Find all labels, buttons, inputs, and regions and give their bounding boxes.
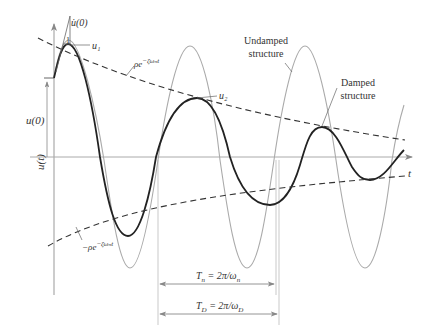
undamped-leader [285, 63, 292, 72]
undamped-label-line1: Undamped [244, 35, 288, 46]
t-axis-label: t [408, 167, 412, 179]
leader-lines [70, 45, 337, 240]
u2-label: u₂ [219, 90, 228, 101]
damped-curve [54, 44, 404, 236]
damped-label-line2: structure [341, 90, 377, 101]
slope-marker: 1 [66, 36, 70, 45]
td-label: TD = 2π/ωD [196, 300, 243, 314]
initial-displacement-marker [44, 78, 54, 157]
upper-envelope-leader [126, 66, 134, 76]
lower-envelope [48, 176, 405, 246]
lower-envelope-leader [76, 227, 82, 240]
envelopes [38, 38, 405, 246]
vibration-diagram: u(t) t u(0) u̇(0) 1 u₁ u₂ ρe−ζωₙt −ρe−ζω… [0, 0, 432, 336]
undamped-label-line2: structure [249, 48, 285, 59]
u1-label: u₁ [92, 40, 100, 51]
axes [30, 24, 412, 295]
y-axis-label: u(t) [34, 154, 47, 170]
u-dot-0-label: u̇(0) [71, 17, 88, 29]
u2-leader [197, 96, 217, 98]
lower-envelope-label: −ρe−ζωₙt [82, 240, 114, 252]
upper-envelope-label: ρe−ζωₙt [133, 57, 160, 69]
u0-label: u(0) [26, 114, 45, 127]
damped-label-line1: Damped [341, 77, 375, 88]
tn-label: Tn = 2π/ωn [196, 270, 241, 284]
